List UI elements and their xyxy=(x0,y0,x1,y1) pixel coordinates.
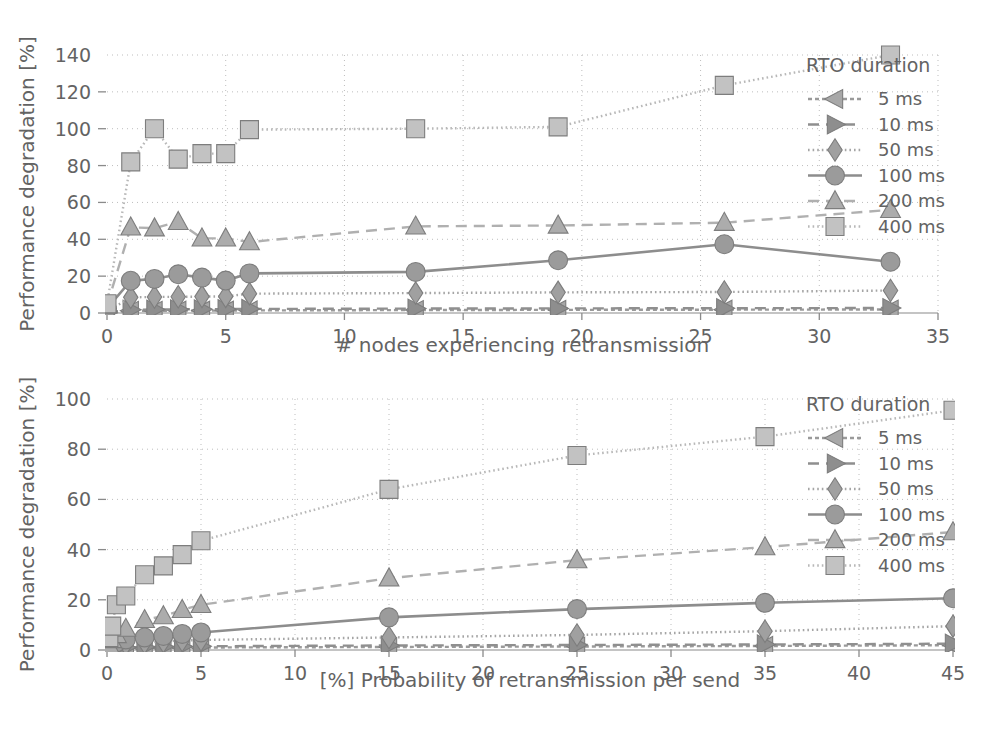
y-tick-label: 100 xyxy=(55,118,91,140)
data-point-marker xyxy=(135,610,155,628)
data-point-marker xyxy=(715,235,734,254)
data-point-marker xyxy=(407,120,425,138)
y-tick-label: 20 xyxy=(67,265,91,287)
y-tick-label: 120 xyxy=(55,81,91,103)
y-axis-title: Performance degradation [%] xyxy=(15,377,39,673)
data-point-marker xyxy=(715,76,733,94)
data-point-marker xyxy=(192,228,212,246)
data-point-marker xyxy=(549,251,568,270)
x-tick-label: 35 xyxy=(926,325,950,347)
data-point-marker xyxy=(946,615,960,638)
data-point-marker xyxy=(154,606,174,624)
series-50-ms xyxy=(102,615,961,659)
legend-item-200-ms: 200 ms xyxy=(808,529,945,550)
data-point-marker xyxy=(240,264,259,283)
legend-item-5-ms: 5 ms xyxy=(808,88,922,109)
y-tick-label: 80 xyxy=(67,438,91,460)
x-tick-label: 30 xyxy=(807,325,831,347)
legend-marker xyxy=(825,90,843,109)
data-point-marker xyxy=(135,628,154,647)
legend-marker xyxy=(825,191,845,209)
y-tick-label: 60 xyxy=(67,488,91,510)
legend-marker xyxy=(826,166,845,185)
y-tick-label: 0 xyxy=(79,639,91,661)
legend-label: 50 ms xyxy=(878,139,934,160)
legend-item-50-ms: 50 ms xyxy=(808,139,934,162)
data-point-marker xyxy=(380,480,398,498)
data-point-marker xyxy=(406,216,426,234)
chart-bottom-canvas: 020406080100051015202530354045Performanc… xyxy=(0,365,983,730)
legend-marker xyxy=(827,115,845,134)
chart-panel-top: 02040608010012014005101520253035Performa… xyxy=(0,0,983,365)
legend-marker xyxy=(826,218,844,236)
y-tick-label: 40 xyxy=(67,539,91,561)
data-point-marker xyxy=(154,626,173,645)
x-tick-label: 5 xyxy=(220,325,232,347)
legend: RTO duration5 ms10 ms50 ms100 ms200 ms40… xyxy=(806,393,945,576)
data-point-marker xyxy=(406,262,425,281)
legend-marker xyxy=(828,139,842,162)
legend-title: RTO duration xyxy=(806,393,930,415)
data-point-marker xyxy=(98,295,116,313)
legend-label: 200 ms xyxy=(878,529,945,550)
data-point-marker xyxy=(240,121,258,139)
x-tick-label: 45 xyxy=(941,662,965,684)
data-point-marker xyxy=(549,118,567,136)
legend-label: 50 ms xyxy=(878,478,934,499)
data-point-marker xyxy=(173,624,192,643)
legend-title: RTO duration xyxy=(806,54,930,76)
data-point-marker xyxy=(136,566,154,584)
data-point-marker xyxy=(756,428,774,446)
axes: 02040608010012014005101520253035 xyxy=(55,44,950,347)
legend-label: 200 ms xyxy=(878,190,945,211)
data-point-marker xyxy=(154,557,172,575)
series-5-ms xyxy=(97,300,899,322)
legend-marker xyxy=(825,530,845,548)
data-point-marker xyxy=(117,587,135,605)
data-point-marker xyxy=(944,401,962,419)
x-tick-label: 35 xyxy=(753,662,777,684)
series-400-ms xyxy=(98,46,900,313)
data-point-marker xyxy=(169,150,187,168)
legend-item-10-ms: 10 ms xyxy=(808,453,934,474)
data-point-marker xyxy=(121,271,140,290)
figure-root: 02040608010012014005101520253035Performa… xyxy=(0,0,983,730)
y-tick-label: 100 xyxy=(55,388,91,410)
y-tick-label: 0 xyxy=(79,302,91,324)
x-tick-label: 0 xyxy=(101,325,113,347)
legend-label: 100 ms xyxy=(878,165,945,186)
legend-item-50-ms: 50 ms xyxy=(808,478,934,501)
legend: RTO duration5 ms10 ms50 ms100 ms200 ms40… xyxy=(806,54,945,237)
legend-marker xyxy=(826,505,845,524)
legend-marker xyxy=(828,478,842,501)
legend-label: 10 ms xyxy=(878,453,934,474)
legend-label: 100 ms xyxy=(878,504,945,525)
data-point-marker xyxy=(145,120,163,138)
data-point-marker xyxy=(192,623,211,642)
data-point-marker xyxy=(193,268,212,287)
x-tick-label: 0 xyxy=(101,662,113,684)
legend-label: 5 ms xyxy=(878,427,922,448)
data-point-marker xyxy=(216,228,236,246)
y-tick-label: 80 xyxy=(67,155,91,177)
data-point-marker xyxy=(568,600,587,619)
data-point-marker xyxy=(944,589,963,608)
y-tick-label: 60 xyxy=(67,191,91,213)
legend-marker xyxy=(826,557,844,575)
series-200-ms xyxy=(97,199,900,313)
chart-panel-bottom: 020406080100051015202530354045Performanc… xyxy=(0,365,983,730)
series-group xyxy=(97,46,901,323)
data-point-marker xyxy=(145,269,164,288)
data-point-marker xyxy=(169,265,188,284)
data-point-marker xyxy=(881,252,900,271)
legend-marker xyxy=(825,429,843,448)
legend-item-10-ms: 10 ms xyxy=(808,114,934,135)
chart-top-canvas: 02040608010012014005101520253035Performa… xyxy=(0,0,983,365)
data-point-marker xyxy=(122,153,140,171)
legend-item-400-ms: 400 ms xyxy=(808,555,945,576)
legend-item-200-ms: 200 ms xyxy=(808,190,945,211)
x-tick-label: 5 xyxy=(195,662,207,684)
series-line xyxy=(109,410,953,637)
data-point-marker xyxy=(548,215,568,233)
data-point-marker xyxy=(216,271,235,290)
